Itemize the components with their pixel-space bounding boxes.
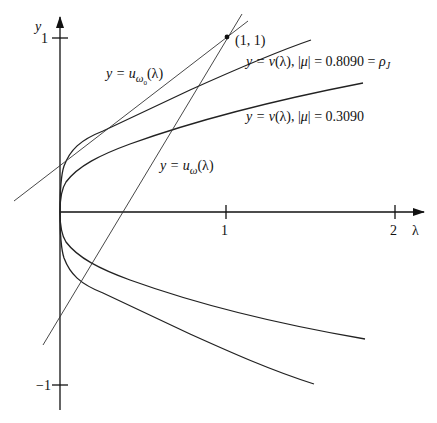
label-v-0809: y = v(λ), |μ| = 0.8090 = ρJ — [244, 54, 391, 71]
y-axis-label: y — [33, 19, 42, 34]
line-u-omega — [43, 14, 242, 345]
curve-v-0309-lower — [60, 212, 365, 339]
x-tick-label-2: 2 — [390, 223, 397, 238]
line-u-omega0 — [14, 21, 248, 201]
x-tick-label-1: 1 — [221, 223, 228, 238]
x-axis-label: λ — [412, 223, 419, 238]
curve-v-0309-upper — [60, 83, 363, 212]
y-tick-label-neg1: −1 — [36, 378, 51, 393]
spectral-diagram: 1 2 λ 1 −1 y (1, 1) y = uω0(λ) y = uω(λ)… — [0, 0, 437, 423]
label-v-0309: y = v(λ), |μ| = 0.3090 — [244, 109, 364, 125]
label-u-omega: y = uω(λ) — [158, 158, 214, 176]
label-u-omega0: y = uω0(λ) — [104, 66, 163, 87]
point-1-1-marker — [225, 35, 230, 40]
point-1-1-label: (1, 1) — [235, 33, 266, 49]
y-tick-label-1: 1 — [41, 31, 48, 46]
